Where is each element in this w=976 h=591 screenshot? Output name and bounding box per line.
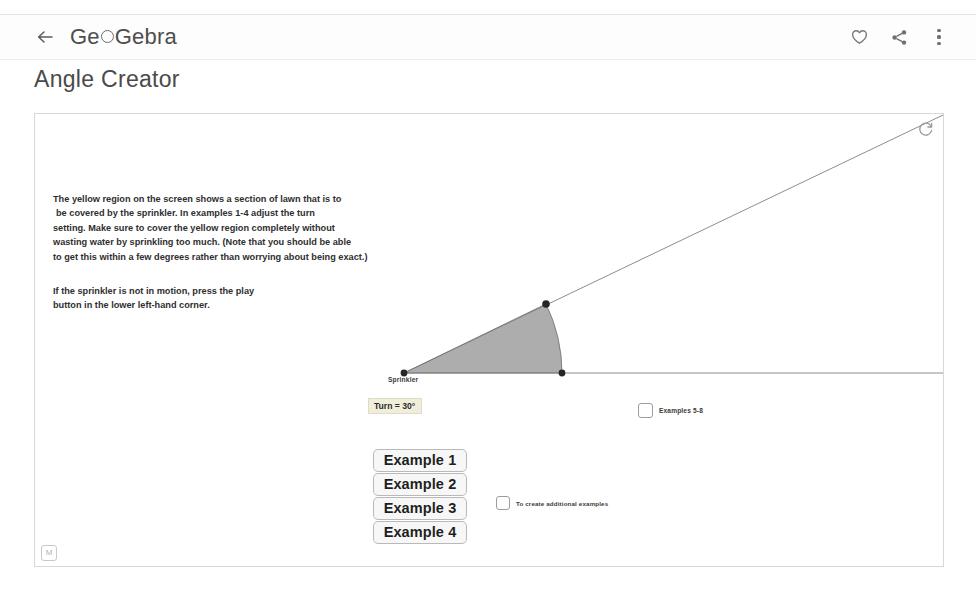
- ray-handle-point: [542, 300, 550, 308]
- app-brand[interactable]: Ge Gebra: [70, 24, 177, 50]
- app-bar-left-group: Ge Gebra: [34, 24, 177, 50]
- instr-line: be covered by the sprinkler. In examples…: [53, 206, 413, 220]
- kebab-dot: [937, 42, 940, 45]
- instr-line: setting. Make sure to cover the yellow r…: [53, 223, 335, 233]
- additional-examples-checkbox[interactable]: [496, 496, 510, 510]
- kebab-menu-icon[interactable]: [928, 26, 950, 48]
- app-bar-actions: [848, 26, 950, 48]
- example-2-button[interactable]: Example 2: [373, 473, 467, 496]
- sector-shaded-region: [404, 304, 562, 373]
- applet-logo-button[interactable]: M: [41, 545, 57, 561]
- example-button-group: Example 1 Example 2 Example 3 Example 4: [373, 449, 467, 544]
- instr-line: If the sprinkler is not in motion, press…: [53, 286, 254, 296]
- instr-line: wasting water by sprinkling too much. (N…: [53, 237, 351, 247]
- instructions-paragraph-2: If the sprinkler is not in motion, press…: [53, 284, 413, 313]
- example-4-button[interactable]: Example 4: [373, 521, 467, 544]
- instr-line: button in the lower left-hand corner.: [53, 300, 210, 310]
- instr-line: The yellow region on the screen shows a …: [53, 194, 341, 204]
- scan-margin-top: [0, 0, 976, 14]
- share-icon[interactable]: [888, 26, 910, 48]
- examples-5-8-checkbox[interactable]: [638, 403, 653, 418]
- kebab-dots: [937, 29, 940, 45]
- geogebra-applet[interactable]: The yellow region on the screen shows a …: [34, 113, 944, 567]
- example-3-button[interactable]: Example 3: [373, 497, 467, 520]
- geogebra-dot-icon: [101, 30, 114, 43]
- examples-5-8-checkbox-row[interactable]: Examples 5-8: [638, 403, 703, 418]
- brand-text-second: Gebra: [115, 24, 177, 50]
- additional-examples-checkbox-row[interactable]: To create additional examples: [496, 496, 608, 510]
- app-bar: Ge Gebra: [0, 14, 976, 60]
- sprinkler-label: Sprinkler: [388, 376, 418, 383]
- turn-value-label[interactable]: Turn = 30°: [368, 398, 422, 414]
- refresh-icon[interactable]: [917, 120, 935, 138]
- additional-examples-label: To create additional examples: [516, 500, 608, 507]
- back-arrow-icon[interactable]: [34, 26, 56, 48]
- example-1-button[interactable]: Example 1: [373, 449, 467, 472]
- page-title: Angle Creator: [34, 66, 180, 93]
- kebab-dot: [937, 29, 940, 32]
- instructions-paragraph-1: The yellow region on the screen shows a …: [53, 192, 413, 264]
- kebab-dot: [937, 35, 940, 38]
- scan-margin-bottom: [0, 575, 976, 591]
- arc-endpoint-point: [559, 370, 566, 377]
- heart-icon[interactable]: [848, 26, 870, 48]
- brand-text-first: Ge: [70, 24, 100, 50]
- examples-5-8-label: Examples 5-8: [659, 407, 703, 414]
- instr-line: to get this within a few degrees rather …: [53, 252, 367, 262]
- instructions-text: The yellow region on the screen shows a …: [53, 192, 413, 313]
- angle-geometry-canvas[interactable]: [35, 114, 943, 566]
